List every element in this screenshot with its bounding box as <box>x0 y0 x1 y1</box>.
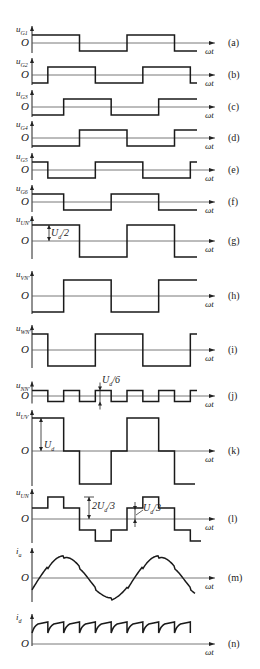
panel-j-xlabel: ωt <box>205 400 214 409</box>
panel-k-x-arrow-icon <box>209 449 215 453</box>
panel-n-tag: (n) <box>228 639 240 649</box>
panel-e-xlabel: ωt <box>205 174 214 183</box>
panel-f-origin-label: O <box>21 196 29 207</box>
panel-b-tag: (b) <box>228 70 240 80</box>
panel-e-ylabel: uG5 <box>16 152 28 163</box>
panel-h-y-arrow-icon <box>30 271 34 276</box>
panel-a-ylabel: uG1 <box>16 25 28 36</box>
panel-h-origin-label: O <box>21 290 29 301</box>
panel-m-origin-label: O <box>21 572 29 583</box>
panel-m-x-arrow-icon <box>209 576 215 580</box>
annotation-ud-over-3: Ud/3 <box>143 503 161 515</box>
panel-e-origin-label: O <box>21 164 29 175</box>
panel-f-y-arrow-icon <box>30 185 34 190</box>
panel-k-origin-label: O <box>21 445 29 456</box>
panel-g-origin-label: O <box>21 235 29 246</box>
panel-l-xlabel: ωt <box>205 523 214 532</box>
panel-d-x-arrow-icon <box>209 136 215 140</box>
panel-i-tag: (i) <box>228 345 237 355</box>
panel-b-x-arrow-icon <box>209 73 215 77</box>
ud-arrow-down-icon <box>39 447 43 451</box>
annotation-ud-over-6: Ud/6 <box>102 375 120 387</box>
panel-d-xlabel: ωt <box>205 142 214 151</box>
panel-m-y-arrow-icon <box>30 548 34 553</box>
panel-k-xlabel: ωt <box>205 455 214 464</box>
panel-n-y-arrow-icon <box>30 614 34 619</box>
panel-n-xlabel: ωt <box>205 648 214 657</box>
panel-k-tag: (k) <box>228 446 240 456</box>
panel-m-tag: (m) <box>228 573 242 583</box>
panel-b-y-arrow-icon <box>30 58 34 63</box>
annotation-ud-over-2: Ud/2 <box>51 228 69 240</box>
annotation-ud: Ud <box>44 440 54 452</box>
panel-m-xlabel: ωt <box>205 582 214 591</box>
panel-h-ylabel: uVN' <box>16 270 29 281</box>
panel-l-y-arrow-icon <box>30 489 34 494</box>
ud6-arrow-up-icon <box>98 402 102 406</box>
panel-b-ylabel: uG2 <box>16 57 28 68</box>
panel-l-origin-label: O <box>21 513 29 524</box>
inverter-waveform-figure <box>0 0 260 669</box>
panel-n-ylabel: id <box>16 613 22 624</box>
ud3-leader-line <box>136 510 143 515</box>
panel-i-xlabel: ωt <box>205 354 214 363</box>
panel-l-ylabel: uUN <box>16 488 29 499</box>
panel-f-xlabel: ωt <box>205 206 214 215</box>
panel-c-tag: (c) <box>228 102 239 112</box>
panel-g-x-arrow-icon <box>209 239 215 243</box>
panel-a-tag: (a) <box>228 38 239 48</box>
panel-c-ylabel: uG3 <box>16 89 28 100</box>
panel-i-ylabel: uWN' <box>16 324 31 335</box>
panel-j-origin-label: O <box>21 390 29 401</box>
panel-h-xlabel: ωt <box>205 300 214 309</box>
panel-l-x-arrow-icon <box>209 517 215 521</box>
panel-a-x-arrow-icon <box>209 41 215 45</box>
panel-j-tag: (j) <box>228 391 237 401</box>
panel-e-tag: (e) <box>228 165 239 175</box>
panel-g-xlabel: ωt <box>205 245 214 254</box>
panel-h-x-arrow-icon <box>209 294 215 298</box>
panel-k-y-arrow-icon <box>30 410 34 415</box>
panel-a-y-arrow-icon <box>30 26 34 31</box>
panel-i-origin-label: O <box>21 344 29 355</box>
panel-n-x-arrow-icon <box>209 642 215 646</box>
annotation-2ud-over-3: 2Ud/3 <box>92 501 115 513</box>
panel-n-waveform <box>32 622 190 633</box>
panel-i-x-arrow-icon <box>209 348 215 352</box>
panel-c-x-arrow-icon <box>209 105 215 109</box>
panel-m-ylabel: ia <box>16 547 22 558</box>
panel-g-ylabel: uUN' <box>16 215 30 226</box>
panel-b-origin-label: O <box>21 69 29 80</box>
panel-j-x-arrow-icon <box>209 394 215 398</box>
panel-j-y-arrow-icon <box>30 382 34 387</box>
panel-d-tag: (d) <box>228 133 240 143</box>
panel-k-ylabel: uUV <box>16 409 29 420</box>
panel-f-tag: (f) <box>228 197 238 207</box>
panel-d-y-arrow-icon <box>30 121 34 126</box>
panel-a-origin-label: O <box>21 37 29 48</box>
panel-l-tag: (l) <box>228 514 237 524</box>
panel-h-tag: (h) <box>228 291 240 301</box>
two-ud3-arrow-down-icon <box>87 515 91 519</box>
ud3-arrow-up-icon <box>133 519 137 523</box>
panel-a-xlabel: ωt <box>205 47 214 56</box>
panel-b-xlabel: ωt <box>205 79 214 88</box>
panel-d-origin-label: O <box>21 132 29 143</box>
panel-e-y-arrow-icon <box>30 153 34 158</box>
two-ud3-arrow-up-icon <box>87 497 91 501</box>
panel-d-ylabel: uG4 <box>16 120 28 131</box>
panel-c-xlabel: ωt <box>205 111 214 120</box>
panel-n-origin-label: O <box>21 638 29 649</box>
panel-f-ylabel: uG6 <box>16 184 28 195</box>
panel-c-y-arrow-icon <box>30 90 34 95</box>
panel-e-x-arrow-icon <box>209 168 215 172</box>
panel-c-origin-label: O <box>21 101 29 112</box>
panel-g-y-arrow-icon <box>30 216 34 221</box>
panel-g-tag: (g) <box>228 236 240 246</box>
panel-f-x-arrow-icon <box>209 200 215 204</box>
waveform-canvas <box>0 0 260 669</box>
